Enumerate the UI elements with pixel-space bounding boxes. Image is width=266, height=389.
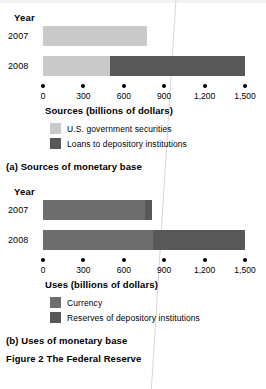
panel-a-plot-area: [43, 26, 245, 80]
legend-item: Reserves of depository institutions: [50, 311, 200, 324]
axis-tick-label: 900: [157, 91, 171, 101]
panel-b-axis-title: Uses (billions of dollars): [45, 279, 158, 290]
scan-edge: [0, 0, 266, 3]
panel-b-year-header: Year: [14, 186, 35, 197]
legend-swatch-icon: [50, 138, 61, 149]
legend-item: U.S. government securities: [50, 122, 187, 135]
axis-tick-label: 1,500: [234, 265, 255, 275]
axis-tick-dot: [162, 84, 166, 88]
legend-label: U.S. government securities: [67, 124, 172, 134]
axis-tick-label: 900: [157, 265, 171, 275]
axis-tick-label: 0: [41, 91, 46, 101]
panel-b-plot-area: [43, 200, 245, 254]
caption-b: (b) Uses of monetary base: [6, 335, 127, 346]
legend-swatch-icon: [50, 297, 61, 308]
legend-label: Loans to depository institutions: [67, 139, 187, 149]
axis-tick-dot: [162, 258, 166, 262]
panel-a-row-label-2008: 2008: [8, 61, 28, 71]
axis-tick-label: 300: [76, 91, 90, 101]
axis-tick-dot: [41, 84, 45, 88]
panel-b-legend: CurrencyReserves of depository instituti…: [50, 296, 200, 326]
panel-a-row-label-2007: 2007: [8, 31, 28, 41]
axis-tick-dot: [243, 258, 247, 262]
bar-2007-uses: [43, 200, 152, 220]
panel-a-year-header: Year: [14, 12, 35, 23]
legend-swatch-icon: [50, 312, 61, 323]
bar-2008-sources: [43, 56, 245, 76]
bar-segment: [110, 56, 245, 76]
axis-tick-dot: [81, 84, 85, 88]
bar-segment: [145, 200, 152, 220]
axis-tick-dot: [122, 84, 126, 88]
bar-segment: [153, 230, 245, 250]
legend-swatch-icon: [50, 123, 61, 134]
caption-a: (a) Sources of monetary base: [6, 161, 142, 172]
axis-tick-dot: [122, 258, 126, 262]
panel-b-x-axis: 03006009001,2001,500: [43, 258, 245, 280]
bar-segment: [43, 200, 145, 220]
axis-tick-label: 600: [117, 91, 131, 101]
legend-item: Loans to depository institutions: [50, 137, 187, 150]
axis-tick-label: 1,500: [234, 91, 255, 101]
axis-tick-dot: [81, 258, 85, 262]
axis-tick-label: 300: [76, 265, 90, 275]
axis-tick-dot: [203, 84, 207, 88]
axis-tick-label: 1,200: [194, 91, 215, 101]
axis-tick-label: 0: [41, 265, 46, 275]
bar-2007-sources: [43, 26, 147, 46]
panel-b-row-label-2007: 2007: [8, 205, 28, 215]
bar-2008-uses: [43, 230, 245, 250]
legend-item: Currency: [50, 296, 200, 309]
panel-a-x-axis: 03006009001,2001,500: [43, 84, 245, 106]
figure-title: Figure 2 The Federal Reserve: [6, 353, 141, 364]
legend-label: Reserves of depository institutions: [67, 313, 200, 323]
axis-tick-dot: [203, 258, 207, 262]
panel-b-row-label-2008: 2008: [8, 235, 28, 245]
panel-a-legend: U.S. government securitiesLoans to depos…: [50, 122, 187, 152]
legend-label: Currency: [67, 298, 102, 308]
panel-a-axis-title: Sources (billions of dollars): [45, 105, 173, 116]
bar-segment: [43, 230, 153, 250]
bar-segment: [43, 26, 147, 46]
axis-tick-dot: [243, 84, 247, 88]
axis-tick-dot: [41, 258, 45, 262]
axis-tick-label: 1,200: [194, 265, 215, 275]
bar-segment: [43, 56, 110, 76]
axis-tick-label: 600: [117, 265, 131, 275]
